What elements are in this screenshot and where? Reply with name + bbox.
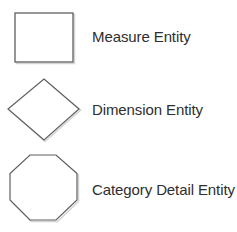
entity-legend: Measure Entity Dimension Entity Category… — [0, 0, 237, 232]
dimension-entity-label: Dimension Entity — [92, 102, 203, 117]
diamond-icon — [8, 79, 81, 142]
rectangle-icon — [15, 13, 75, 64]
octagon-icon — [10, 155, 79, 222]
category-detail-entity-label: Category Detail Entity — [92, 182, 235, 197]
measure-entity-label: Measure Entity — [92, 29, 191, 44]
